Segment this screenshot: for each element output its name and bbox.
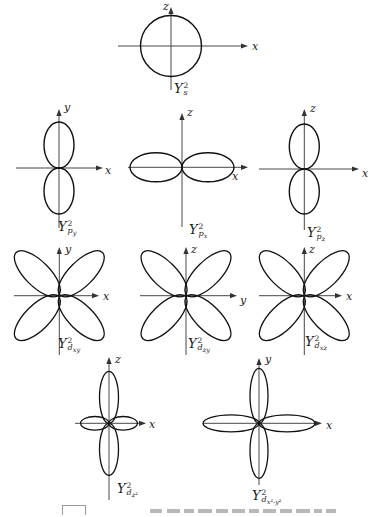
x-axis-arrow-icon xyxy=(352,166,359,171)
caption-fragment xyxy=(232,509,245,513)
figure-dx2y2-orbital: y x Y2dx²-y² xyxy=(190,352,370,502)
caption-fragment xyxy=(150,509,162,513)
caption-fragment xyxy=(216,509,228,513)
x-axis-arrow-icon xyxy=(241,43,248,48)
x-axis-label: x xyxy=(252,40,259,53)
z-axis-arrow-icon xyxy=(302,247,307,254)
figure-label: Y2pz xyxy=(307,226,325,241)
y-axis-label: y xyxy=(63,101,71,114)
caption-fragment xyxy=(314,509,322,513)
x-axis-arrow-icon xyxy=(139,421,146,426)
z-axis-label: z xyxy=(114,353,121,366)
x-axis-arrow-icon xyxy=(315,421,322,426)
z-axis-arrow-icon xyxy=(106,357,111,364)
caption-fragment xyxy=(296,509,310,513)
caption-fragment xyxy=(167,509,180,513)
caption-fragment xyxy=(198,509,212,513)
figure-dxz-orbital: z x Y2dxz xyxy=(245,240,370,360)
z-axis-arrow-icon xyxy=(183,247,188,254)
axes xyxy=(75,363,140,500)
caption-fragment xyxy=(326,509,336,513)
z-axis-label: z xyxy=(162,0,169,13)
figure-label: Y2dx²-y² xyxy=(252,489,281,504)
orbital-angular-distribution-diagram: z x Y2s y x Y2py xyxy=(0,0,370,517)
figure-dxy-orbital: y x Y2dxy xyxy=(0,240,130,360)
figure-label: Y2py xyxy=(58,220,76,235)
caption-fragment xyxy=(249,509,259,513)
figure-label: Y2dz² xyxy=(117,482,138,497)
y-axis-label: y xyxy=(264,353,272,366)
axes xyxy=(128,119,242,227)
x-axis-label: x xyxy=(232,170,239,183)
cropped-caption xyxy=(0,503,370,517)
x-axis-label: x xyxy=(346,290,353,303)
z-axis-arrow-icon xyxy=(302,109,307,116)
figure-label: Y2px xyxy=(189,223,207,238)
x-axis-label: x xyxy=(326,419,333,432)
z-axis-label: z xyxy=(190,243,197,256)
y-axis-arrow-icon xyxy=(56,109,61,116)
y-axis-arrow-icon xyxy=(230,293,237,298)
z-axis-arrow-icon xyxy=(179,113,184,120)
figure-py-orbital: y x Y2py xyxy=(0,100,130,240)
figure-label: Y2dxy xyxy=(58,337,80,352)
figure-dz2-orbital: z x Y2dz² xyxy=(55,352,185,502)
caption-fragment xyxy=(263,509,276,513)
lobe-sw xyxy=(252,288,312,348)
x-axis-arrow-icon xyxy=(335,293,342,298)
figure-label: Y2s xyxy=(174,82,188,97)
z-axis-label: z xyxy=(309,102,316,115)
z-axis-arrow-icon xyxy=(168,7,173,14)
figure-pz-orbital: z x Y2pz xyxy=(245,100,370,240)
x-axis-label: x xyxy=(103,290,110,303)
axes xyxy=(16,115,97,228)
z-axis-label: z xyxy=(186,106,193,119)
axes xyxy=(259,115,353,230)
x-axis-arrow-icon xyxy=(96,165,103,170)
caption-fragment xyxy=(184,509,194,513)
y-axis-label: y xyxy=(64,243,72,256)
z-axis-label: z xyxy=(308,243,315,256)
figure-dzy-orbital: z y Y2dzy xyxy=(125,240,255,360)
caption-fragment xyxy=(62,505,86,515)
y-axis-arrow-icon xyxy=(256,358,261,365)
axes xyxy=(118,13,242,90)
x-axis-label: x xyxy=(105,164,112,177)
x-axis-label: x xyxy=(362,167,369,180)
x-axis-arrow-icon xyxy=(92,293,99,298)
figure-label: Y2dxz xyxy=(305,335,327,350)
x-axis-label: x xyxy=(149,418,156,431)
lobe-sw xyxy=(134,288,194,348)
y-axis-arrow-icon xyxy=(57,247,62,254)
figure-s-orbital: z x Y2s xyxy=(100,0,270,100)
caption-fragment xyxy=(280,509,292,513)
figure-label: Y2dzy xyxy=(188,337,210,352)
